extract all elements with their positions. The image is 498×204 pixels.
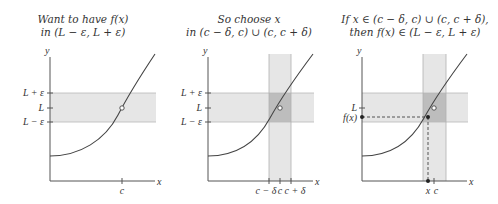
tick-L: L bbox=[37, 102, 44, 113]
tick-L-minus-eps: L − ε bbox=[180, 116, 202, 127]
tick-L: L bbox=[195, 102, 202, 113]
open-point bbox=[432, 106, 436, 110]
dot-x-on-x-axis bbox=[426, 179, 430, 183]
tick-c-minus-delta: c − δ bbox=[256, 185, 277, 196]
x-axis-label: x bbox=[314, 176, 320, 187]
point-fx bbox=[426, 115, 430, 119]
panel-conclusion: If x ∈ (c − δ, c) ∪ (c, c + δ), then f(x… bbox=[332, 0, 498, 204]
tick-x: x bbox=[425, 185, 431, 196]
tick-c: c bbox=[120, 185, 125, 196]
graph-2: y x L + ε L L − ε c − δ c c + δ bbox=[166, 0, 332, 204]
tick-L-plus-eps: L + ε bbox=[180, 87, 202, 98]
y-axis-label: y bbox=[202, 45, 208, 56]
x-axis-label: x bbox=[468, 176, 474, 187]
panel-choose-x: So choose x in (c − δ, c) ∪ (c, c + δ) y… bbox=[166, 0, 332, 204]
epsilon-band bbox=[50, 93, 156, 122]
tick-c-plus-delta: c + δ bbox=[285, 185, 306, 196]
open-point bbox=[278, 106, 282, 110]
panel-want-fx: Want to have f(x) in (L − ε, L + ε) y x … bbox=[0, 0, 166, 204]
tick-L-minus-eps: L − ε bbox=[22, 116, 44, 127]
x-axis-label: x bbox=[156, 176, 162, 187]
dot-fx-on-y-axis bbox=[360, 115, 364, 119]
epsilon-band bbox=[208, 93, 314, 122]
tick-c: c bbox=[434, 185, 439, 196]
open-point bbox=[120, 106, 124, 110]
tick-L-plus-eps: L + ε bbox=[22, 87, 44, 98]
tick-fx: f(x) bbox=[343, 112, 358, 124]
y-axis-label: y bbox=[356, 45, 362, 56]
epsilon-band bbox=[362, 93, 468, 122]
y-axis-label: y bbox=[44, 45, 50, 56]
tick-c: c bbox=[278, 185, 283, 196]
graph-3: y x L f(x) x c bbox=[332, 0, 498, 204]
graph-1: y x L + ε L L − ε c bbox=[0, 0, 166, 204]
